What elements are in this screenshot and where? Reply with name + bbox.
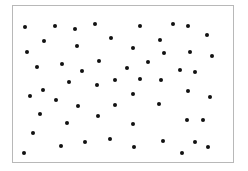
dot [158,38,162,42]
dot [132,145,136,149]
dot [73,27,77,31]
dot [131,92,135,96]
dot [159,78,163,82]
dot [186,89,190,93]
dot [22,151,26,155]
dot [157,102,161,106]
dot [96,114,100,118]
dot [41,88,45,92]
dot [75,44,79,48]
dot [185,118,189,122]
dot [193,140,197,144]
dot [67,80,71,84]
dot [113,78,117,82]
dot [83,140,87,144]
dot [95,83,99,87]
dot [161,139,165,143]
dot [146,60,150,64]
dot [125,66,129,70]
dot [113,103,117,107]
dot [108,137,112,141]
dot [60,62,64,66]
dot [162,51,166,55]
dot [180,151,184,155]
dot [201,118,205,122]
dot [42,39,46,43]
dot [171,22,175,26]
dot [210,54,214,58]
dot [54,98,58,102]
dot [31,131,35,135]
dot-field-frame [12,5,234,163]
dot [208,95,212,99]
dot [80,69,84,73]
dot [186,24,190,28]
dot [97,59,101,63]
dot [23,25,27,29]
dot [35,65,39,69]
dot [188,50,192,54]
dot [178,68,182,72]
dot [76,104,80,108]
dot [109,36,113,40]
dot [65,121,69,125]
dot [25,50,29,54]
dot [53,24,57,28]
dot [59,144,63,148]
dot [131,122,135,126]
dot [205,33,209,37]
dot [38,112,42,116]
dot [131,46,135,50]
dot [138,77,142,81]
dot [193,70,197,74]
dot [93,22,97,26]
dot [206,145,210,149]
dot [138,24,142,28]
dot [28,94,32,98]
